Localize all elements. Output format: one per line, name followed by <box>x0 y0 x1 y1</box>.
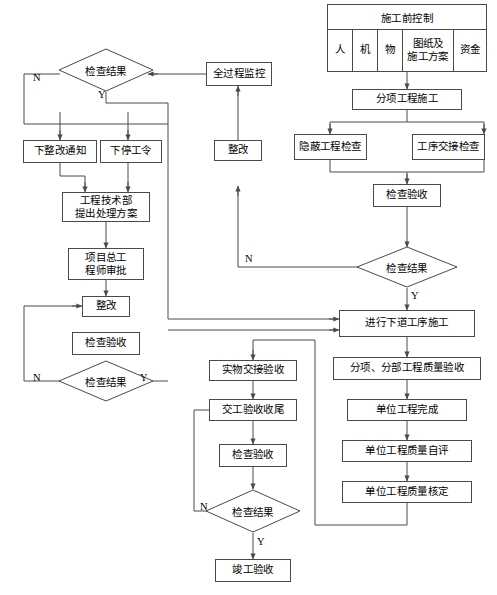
node-jiancha-yanshou-bottom[interactable]: 检查验收 <box>219 444 287 467</box>
node-xiangmu-zonggongchengshi-shenpi[interactable]: 项目总工 程师审批 <box>68 248 144 280</box>
pre-construction-control-table: 施工前控制 人 机 物 图纸及 施工方案 资金 <box>327 4 487 72</box>
node-gongcheng-jishubu-chuli-fangan[interactable]: 工程技术部 提出处理方案 <box>62 192 150 222</box>
decision-jiancha-jieguo-topleft[interactable]: 检查结果 <box>58 48 154 92</box>
node-zhenggai-left[interactable]: 整改 <box>82 296 130 317</box>
table-header-row: 人 机 物 图纸及 施工方案 资金 <box>328 30 486 71</box>
edge-to-jishubu-left <box>60 163 85 190</box>
node-jiaogong-yanshou-shouwei[interactable]: 交工验收收尾 <box>209 399 297 421</box>
edge-label-right-y: Y <box>411 290 419 301</box>
edge-diamond-n-left <box>238 190 368 267</box>
node-yinbi-gongcheng-jiancha[interactable]: 隐蔽工程检查 <box>294 134 367 160</box>
decision-label: 检查结果 <box>85 63 127 78</box>
node-fenxiang-fenbu-zhiliang-yanshou[interactable]: 分项、分部工程质量验收 <box>333 357 481 380</box>
decision-label: 检查结果 <box>386 260 428 275</box>
node-jiancha-yanshou-right[interactable]: 检查验收 <box>373 184 441 207</box>
node-jungong-yanshou[interactable]: 竣工验收 <box>215 559 291 582</box>
node-shiwu-jiaojie-yanshou[interactable]: 实物交接验收 <box>209 360 297 381</box>
edge-label-bottom-y: Y <box>257 536 265 547</box>
edge-fenxiang-split <box>330 110 484 132</box>
edge-label-topleft-y: Y <box>98 89 106 100</box>
edge-label-left-n: N <box>33 372 41 383</box>
table-cell-zijin: 资金 <box>454 30 486 71</box>
decision-jiancha-jieguo-bottom[interactable]: 检查结果 <box>205 489 301 533</box>
node-danwei-gongcheng-wancheng[interactable]: 单位工程完成 <box>347 399 467 421</box>
decision-label: 检查结果 <box>232 504 274 519</box>
edge-label-topleft-n: N <box>33 72 41 83</box>
node-jiancha-yanshou-left[interactable]: 检查验收 <box>72 332 140 355</box>
node-jinxing-xiadao-gongxu-shigong[interactable]: 进行下道工序施工 <box>339 310 475 337</box>
edge-label-bottom-n: N <box>200 501 208 512</box>
table-cell-ji: 机 <box>353 30 378 71</box>
decision-jiancha-jieguo-right[interactable]: 检查结果 <box>356 246 458 288</box>
edge-label-right-n: N <box>245 253 253 264</box>
table-cell-drawings-plan: 图纸及 施工方案 <box>403 30 454 71</box>
table-cell-ren: 人 <box>328 30 353 71</box>
node-zhenggai-middle[interactable]: 整改 <box>214 140 262 161</box>
table-header-title: 施工前控制 <box>328 5 486 30</box>
node-fenxiang-gongcheng-shigong[interactable]: 分项工程施工 <box>352 89 462 110</box>
node-danwei-gongcheng-zhiliang-ziping[interactable]: 单位工程质量自评 <box>342 440 472 462</box>
decision-label: 检查结果 <box>85 374 127 389</box>
table-cell-wu: 物 <box>378 30 403 71</box>
node-quanguocheng-jiankong[interactable]: 全过程监控 <box>206 62 272 86</box>
edge-label-left-y: Y <box>140 372 148 383</box>
node-xia-zhenggai-tongzhi[interactable]: 下整改通知 <box>23 140 97 163</box>
node-gongxu-jiaojie-jiancha[interactable]: 工序交接检查 <box>412 134 485 160</box>
node-danwei-gongcheng-zhiliang-heding[interactable]: 单位工程质量核定 <box>342 481 472 503</box>
node-xia-tinggong-ling[interactable]: 下停工令 <box>100 140 162 163</box>
